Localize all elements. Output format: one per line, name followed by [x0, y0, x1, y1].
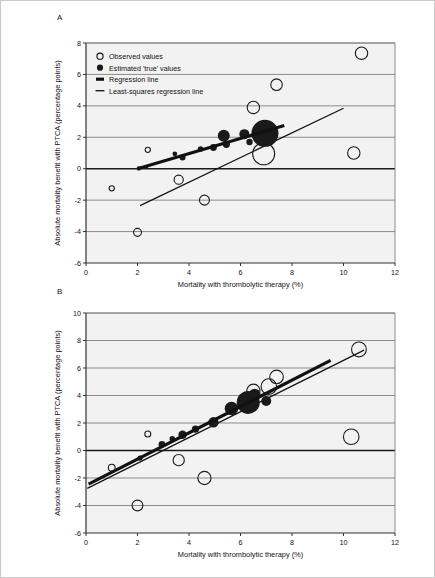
panel-a-plot: -6-4-202468024681012Mortality with throm… — [1, 9, 435, 291]
x-tick-label: 10 — [340, 538, 348, 547]
y-tick-label: 4 — [77, 391, 81, 400]
x-tick-label: 0 — [84, 268, 88, 277]
legend-observed-label: Observed values — [109, 52, 163, 61]
legend-estimated-icon — [97, 65, 103, 71]
y-tick-label: 10 — [73, 309, 81, 318]
panel-b-svg: -6-4-20246810024681012Mortality with thr… — [1, 287, 435, 577]
y-axis-title: Absolute mortality benefit with PTCA (pe… — [53, 330, 62, 515]
panel-a: A -6-4-202468024681012Mortality with thr… — [1, 9, 435, 291]
x-tick-label: 2 — [136, 268, 140, 277]
y-tick-label: 6 — [77, 70, 81, 79]
panel-a-svg: -6-4-202468024681012Mortality with throm… — [1, 9, 435, 291]
x-tick-label: 8 — [290, 268, 294, 277]
x-tick-label: 12 — [391, 268, 399, 277]
y-tick-label: -4 — [75, 501, 81, 510]
y-tick-label: -6 — [75, 529, 81, 538]
y-axis-title: Absolute mortality benefit with PTCA (pe… — [53, 60, 62, 245]
x-tick-label: 4 — [187, 538, 191, 547]
y-tick-label: 2 — [77, 419, 81, 428]
x-tick-label: 10 — [340, 268, 348, 277]
x-tick-label: 8 — [290, 538, 294, 547]
x-tick-label: 6 — [239, 268, 243, 277]
y-tick-label: 6 — [77, 364, 81, 373]
x-axis-title: Mortality with thrombolytic therapy (%) — [178, 550, 303, 559]
x-tick-label: 4 — [187, 268, 191, 277]
y-tick-label: -4 — [75, 227, 81, 236]
y-tick-label: -2 — [75, 474, 81, 483]
x-tick-label: 12 — [391, 538, 399, 547]
panel-b-plot: -6-4-20246810024681012Mortality with thr… — [1, 287, 435, 577]
panel-b: B -6-4-20246810024681012Mortality with t… — [1, 287, 435, 577]
estimated-true-value-marker — [172, 151, 177, 156]
y-tick-label: 4 — [77, 101, 81, 110]
legend-estimated-label: Estimated 'true' values — [109, 64, 181, 73]
y-tick-label: 0 — [77, 164, 81, 173]
y-tick-label: -6 — [75, 259, 81, 268]
x-tick-label: 2 — [136, 538, 140, 547]
legend-regression-label: Regression line — [109, 75, 159, 84]
legend-least-squares-label: Least-squares regression line — [109, 87, 203, 96]
estimated-true-value-marker — [246, 139, 252, 145]
x-tick-label: 0 — [84, 538, 88, 547]
estimated-true-value-marker — [218, 130, 230, 142]
x-tick-label: 6 — [239, 538, 243, 547]
estimated-true-value-marker — [261, 396, 271, 406]
figure-container: A -6-4-202468024681012Mortality with thr… — [0, 0, 435, 578]
y-tick-label: 2 — [77, 133, 81, 142]
y-tick-label: 0 — [77, 446, 81, 455]
y-tick-label: 8 — [77, 336, 81, 345]
y-tick-label: 8 — [77, 39, 81, 48]
y-tick-label: -2 — [75, 196, 81, 205]
